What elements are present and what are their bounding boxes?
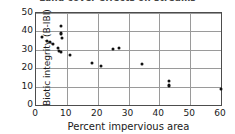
x-axis-tick-labels: 0102030405060 — [35, 109, 222, 121]
y-tick-label: 30 — [11, 44, 33, 53]
y-axis-tick-labels: 01020304050 — [8, 12, 33, 106]
x-tick-label: 30 — [115, 109, 141, 118]
data-point — [60, 33, 63, 36]
gridline-vertical — [159, 13, 160, 105]
data-point — [118, 46, 121, 49]
data-point — [167, 80, 170, 83]
y-tick-label: 50 — [11, 8, 33, 17]
y-tick-label: 0 — [11, 100, 33, 109]
y-axis-label: Biotic integrity (B-IBI) — [41, 12, 53, 106]
data-point — [220, 88, 223, 91]
data-point — [59, 24, 62, 27]
plot-area — [35, 12, 222, 106]
x-tick-label: 40 — [145, 109, 171, 118]
data-point — [112, 47, 115, 50]
x-tick-label: 50 — [176, 109, 202, 118]
data-point — [68, 54, 71, 57]
y-axis-label-wrapper: Biotic integrity (B-IBI) — [41, 12, 53, 106]
x-tick-label: 0 — [22, 109, 48, 118]
data-point — [167, 84, 170, 87]
data-point — [90, 61, 93, 64]
scatter-plot-figure: Land cover effects on streams 0102030405… — [0, 0, 235, 134]
x-tick-label: 10 — [53, 109, 79, 118]
y-tick-label: 10 — [11, 81, 33, 90]
gridline-vertical — [129, 13, 130, 105]
y-tick-label: 40 — [11, 26, 33, 35]
x-tick-label: 20 — [84, 109, 110, 118]
x-axis-label: Percent impervious area — [35, 121, 222, 132]
x-tick-label: 60 — [207, 109, 233, 118]
data-point — [59, 50, 62, 53]
y-tick-label: 20 — [11, 63, 33, 72]
chart-title: Land cover effects on streams — [0, 0, 235, 3]
gridline-vertical — [98, 13, 99, 105]
data-point — [61, 36, 64, 39]
gridline-vertical — [67, 13, 68, 105]
data-point — [99, 65, 102, 68]
gridline-vertical — [190, 13, 191, 105]
chart-title-cropped: Land cover effects on streams — [0, 0, 235, 4]
data-point — [141, 62, 144, 65]
